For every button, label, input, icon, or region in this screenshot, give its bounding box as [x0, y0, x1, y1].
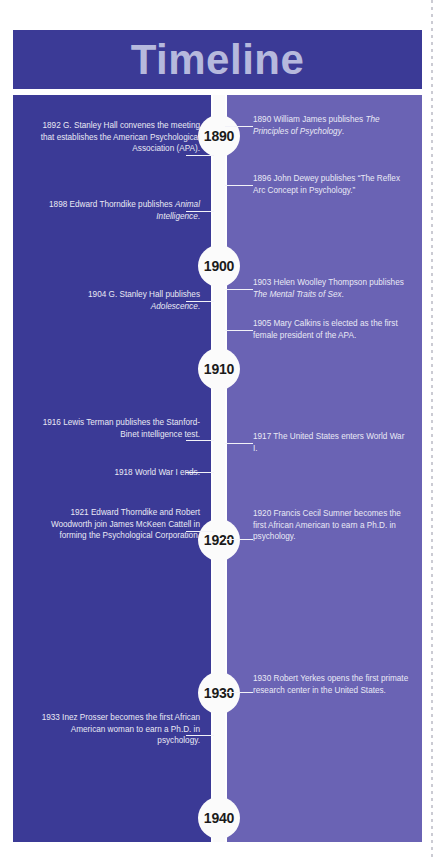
timeline-event-text: 1904 G. Stanley Hall publishes Adolescen… [40, 289, 200, 312]
year-marker-label: 1910 [204, 362, 234, 376]
event-connector-line [225, 539, 253, 540]
timeline-event-text: 1921 Edward Thorndike and Robert Woodwor… [40, 507, 200, 542]
year-marker-label: 1890 [204, 129, 234, 143]
timeline-event-1898: 1898 Edward Thorndike publishes Animal I… [40, 199, 200, 222]
timeline-event-1917: 1917 The United States enters World War … [253, 431, 411, 454]
title-bar: Timeline [13, 30, 422, 89]
timeline-event-text: 1916 Lewis Terman publishes the Stanford… [40, 417, 200, 440]
event-text-segment: . [342, 127, 344, 136]
timeline-event-1933: 1933 Inez Prosser becomes the first Afri… [40, 712, 200, 747]
timeline-body: 189019001910192019301940 1892 G. Stanley… [13, 95, 422, 842]
event-connector-line [186, 211, 214, 212]
timeline-event-text: 1918 World War I ends. [40, 467, 200, 479]
event-text-segment: 1905 Mary Calkins is elected as the firs… [253, 319, 398, 340]
event-connector-line [186, 155, 214, 156]
page-title: Timeline [131, 39, 305, 81]
event-connector-line [225, 289, 253, 290]
timeline-event-1930: 1930 Robert Yerkes opens the first prima… [253, 673, 411, 696]
event-connector-line [225, 126, 253, 127]
event-text-segment: 1890 William James publishes [253, 115, 365, 124]
event-text-segment: 1898 Edward Thorndike publishes [49, 200, 175, 209]
event-text-segment: 1920 Francis Cecil Sumner becomes the fi… [253, 509, 401, 541]
timeline-event-text: 1930 Robert Yerkes opens the first prima… [253, 673, 411, 696]
timeline-event-1905: 1905 Mary Calkins is elected as the firs… [253, 318, 411, 341]
timeline-event-1918: 1918 World War I ends. [40, 467, 200, 479]
event-text-segment: 1917 The United States enters World War … [253, 432, 404, 453]
year-marker-label: 1900 [204, 259, 234, 273]
event-text-segment: 1930 Robert Yerkes opens the first prima… [253, 674, 408, 695]
year-marker-1890[interactable]: 1890 [198, 115, 240, 157]
event-text-segment: . [198, 212, 200, 221]
timeline-event-1921: 1921 Edward Thorndike and Robert Woodwor… [40, 507, 200, 542]
event-connector-line [225, 692, 253, 693]
year-marker-1900[interactable]: 1900 [198, 245, 240, 287]
year-marker-label: 1930 [204, 686, 234, 700]
binding-dots-decoration [431, 0, 433, 857]
year-marker-1940[interactable]: 1940 [198, 797, 240, 839]
event-text-segment: . [198, 302, 200, 311]
event-text-segment: 1921 Edward Thorndike and Robert Woodwor… [51, 508, 200, 540]
event-text-segment: 1903 Helen Woolley Thompson publishes [253, 278, 404, 287]
event-title-italic: The Mental Traits of Sex [253, 290, 342, 299]
event-connector-line [225, 330, 253, 331]
timeline-event-text: 1890 William James publishes The Princip… [253, 114, 411, 137]
timeline-event-text: 1903 Helen Woolley Thompson publishes Th… [253, 277, 411, 300]
timeline-event-text: 1917 The United States enters World War … [253, 431, 411, 454]
event-connector-line [225, 185, 253, 186]
timeline-event-1904: 1904 G. Stanley Hall publishes Adolescen… [40, 289, 200, 312]
timeline-event-text: 1898 Edward Thorndike publishes Animal I… [40, 199, 200, 222]
year-marker-1930[interactable]: 1930 [198, 672, 240, 714]
right-panel [227, 95, 422, 842]
timeline-page: Timeline 189019001910192019301940 1892 G… [0, 0, 437, 857]
timeline-spine [213, 95, 225, 842]
event-text-segment: . [342, 290, 344, 299]
event-text-segment: 1904 G. Stanley Hall publishes [88, 290, 200, 299]
event-connector-line [186, 440, 214, 441]
year-marker-1920[interactable]: 1920 [198, 519, 240, 561]
timeline-event-1916: 1916 Lewis Terman publishes the Stanford… [40, 417, 200, 440]
event-text-segment: 1916 Lewis Terman publishes the Stanford… [43, 418, 200, 439]
event-text-segment: 1892 G. Stanley Hall convenes the meetin… [41, 121, 200, 153]
timeline-event-1892: 1892 G. Stanley Hall convenes the meetin… [40, 120, 200, 155]
event-connector-line [186, 301, 214, 302]
timeline-event-1903: 1903 Helen Woolley Thompson publishes Th… [253, 277, 411, 300]
event-text-segment: 1933 Inez Prosser becomes the first Afri… [42, 713, 200, 745]
year-marker-1910[interactable]: 1910 [198, 348, 240, 390]
event-connector-line [186, 735, 214, 736]
timeline-event-text: 1896 John Dewey publishes “The Reflex Ar… [253, 173, 411, 196]
year-marker-label: 1920 [204, 533, 234, 547]
timeline-event-1896: 1896 John Dewey publishes “The Reflex Ar… [253, 173, 411, 196]
timeline-event-text: 1920 Francis Cecil Sumner becomes the fi… [253, 508, 411, 543]
timeline-event-text: 1892 G. Stanley Hall convenes the meetin… [40, 120, 200, 155]
event-text-segment: 1896 John Dewey publishes “The Reflex Ar… [253, 174, 400, 195]
timeline-event-1920: 1920 Francis Cecil Sumner becomes the fi… [253, 508, 411, 543]
timeline-event-text: 1905 Mary Calkins is elected as the firs… [253, 318, 411, 341]
event-connector-line [186, 472, 214, 473]
event-connector-line [186, 531, 214, 532]
timeline-event-1890: 1890 William James publishes The Princip… [253, 114, 411, 137]
event-title-italic: Adolescence [151, 302, 198, 311]
timeline-event-text: 1933 Inez Prosser becomes the first Afri… [40, 712, 200, 747]
year-marker-label: 1940 [204, 811, 234, 825]
event-connector-line [225, 443, 253, 444]
